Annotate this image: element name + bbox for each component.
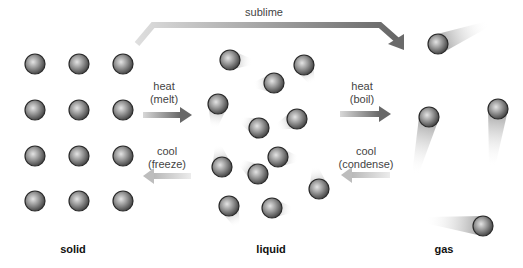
particle: [287, 109, 307, 129]
particle: [69, 191, 89, 211]
particle: [473, 216, 493, 236]
liquid-particles: [208, 50, 329, 227]
particle: [220, 50, 240, 70]
particle: [268, 147, 288, 167]
particle: [25, 146, 45, 166]
condense-label-line1: cool: [338, 145, 393, 158]
particle: [219, 196, 239, 216]
freeze-label-line2: (freeze): [148, 158, 186, 171]
particle: [113, 146, 133, 166]
particle: [262, 198, 282, 218]
gas-label: gas: [435, 243, 454, 255]
particle: [212, 157, 232, 177]
particle: [25, 100, 45, 120]
particle: [113, 191, 133, 211]
particle: [309, 179, 329, 199]
condense-label-line2: (condense): [338, 158, 393, 171]
liquid-label: liquid: [256, 243, 285, 255]
particle: [428, 34, 448, 54]
states-of-matter-diagram: [0, 0, 523, 268]
particle: [69, 146, 89, 166]
particle: [264, 73, 284, 93]
boil-label-line2: (boil): [350, 93, 374, 106]
freeze-label: cool (freeze): [148, 145, 186, 171]
particle: [69, 54, 89, 74]
particle: [294, 55, 314, 75]
particle: [488, 99, 508, 119]
particle: [208, 94, 228, 114]
particle: [113, 54, 133, 74]
particle: [25, 54, 45, 74]
particle: [25, 191, 45, 211]
particle: [419, 107, 439, 127]
particle: [69, 100, 89, 120]
boil-label: heat (boil): [350, 80, 374, 106]
particle: [113, 100, 133, 120]
condense-label: cool (condense): [338, 145, 393, 171]
particle: [248, 164, 268, 184]
particle: [249, 118, 269, 138]
melt-label-line2: (melt): [150, 93, 178, 106]
sublime-arrow: [137, 25, 404, 50]
gas-particles: [412, 21, 508, 236]
boil-arrow: [340, 106, 391, 122]
melt-arrow: [143, 107, 192, 123]
melt-label-line1: heat: [150, 80, 178, 93]
melt-label: heat (melt): [150, 80, 178, 106]
sublime-label: sublime: [245, 6, 283, 19]
freeze-label-line1: cool: [148, 145, 186, 158]
boil-label-line1: heat: [350, 80, 374, 93]
solid-particles: [25, 54, 133, 211]
solid-label: solid: [60, 243, 86, 255]
